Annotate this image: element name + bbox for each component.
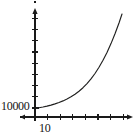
y-axis-tick-label-10000: 10000: [1, 100, 30, 112]
exponential-growth-chart: 10000 10: [0, 0, 134, 139]
x-axis-left-stub-icon: [20, 115, 25, 120]
y-axis: [32, 1, 39, 117]
chart-canvas: [0, 0, 134, 139]
y-axis-arrow-icon: [32, 8, 37, 14]
x-axis-arrow-icon: [127, 114, 133, 119]
x-axis: [20, 114, 133, 121]
exponential-curve: [35, 14, 122, 109]
y-axis-cap-icon: [34, 1, 36, 3]
x-axis-tick-label-10: 10: [39, 122, 51, 134]
